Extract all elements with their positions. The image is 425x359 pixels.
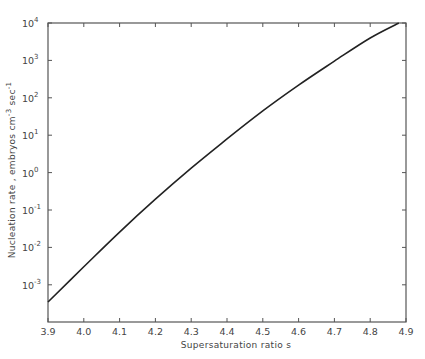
y-tick-exponent: 2 — [34, 91, 38, 99]
y-tick-label: 10 — [22, 130, 34, 141]
plot-border — [48, 23, 406, 322]
x-axis-ticks: 3.94.04.14.24.34.44.54.64.74.84.9 — [40, 23, 413, 337]
y-tick-exponent: 3 — [34, 53, 38, 61]
y-axis-title-sec-exp: -1 — [5, 82, 13, 90]
x-tick-label: 4.0 — [76, 326, 91, 337]
y-tick-exponent: 4 — [34, 16, 39, 24]
y-tick-label: 10 — [22, 55, 34, 66]
y-tick-exponent: -2 — [34, 240, 41, 248]
y-tick-exponent: 1 — [34, 128, 38, 136]
x-tick-label: 4.1 — [112, 326, 127, 337]
y-tick-exponent: -1 — [34, 203, 41, 211]
x-tick-label: 4.6 — [291, 326, 306, 337]
y-axis-title: Nucleation rate , embryos cm-3 sec-1 — [5, 82, 17, 259]
x-tick-label: 4.3 — [184, 326, 199, 337]
x-axis-title: Supersaturation ratio s — [181, 340, 291, 350]
x-tick-label: 4.5 — [255, 326, 270, 337]
y-tick-label: 10 — [22, 242, 34, 253]
y-axis-ticks: 10410310210110010-110-210-3 — [22, 16, 406, 291]
y-axis-title-cm-exp: -3 — [5, 109, 13, 117]
y-tick-label: 10 — [22, 168, 34, 179]
y-tick-label: 10 — [22, 18, 34, 29]
y-axis-title-sec: sec — [7, 89, 17, 108]
x-tick-label: 4.7 — [327, 326, 342, 337]
y-axis-title-main: Nucleation rate , embryos cm — [7, 116, 17, 258]
y-tick-label: 10 — [22, 280, 34, 291]
y-tick-exponent: 0 — [34, 166, 38, 174]
y-tick-label: 10 — [22, 93, 34, 104]
x-tick-label: 4.2 — [148, 326, 163, 337]
x-tick-label: 3.9 — [40, 326, 55, 337]
y-tick-exponent: -3 — [34, 278, 41, 286]
nucleation-curve — [48, 23, 399, 302]
y-tick-label: 10 — [22, 205, 34, 216]
x-tick-label: 4.9 — [398, 326, 413, 337]
nucleation-rate-chart: 3.94.04.14.24.34.44.54.64.74.84.9 104103… — [0, 0, 425, 359]
plot-frame — [48, 23, 406, 322]
x-tick-label: 4.8 — [363, 326, 378, 337]
x-tick-label: 4.4 — [219, 326, 234, 337]
